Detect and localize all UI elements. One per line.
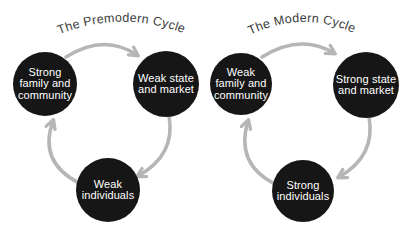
arrow-premodern-individuals-to-family (49, 121, 79, 183)
arrow-modern-family-to-state (262, 44, 334, 57)
arrow-premodern-family-to-state (66, 44, 137, 57)
arrow-modern-state-to-individuals (339, 117, 370, 177)
node-modern-individuals: Strong individuals (272, 160, 334, 222)
node-premodern-individuals: Weak individuals (76, 158, 140, 222)
node-modern-family-community: Weak family and community (210, 53, 272, 115)
node-label-line: individuals (277, 191, 329, 203)
node-premodern-family-community: Strong family and community (13, 52, 77, 116)
cycles-figure: The Premodern Cycle The Modern Cycle Str… (0, 0, 404, 231)
node-label-line: individuals (82, 190, 134, 202)
node-modern-state-market: Strong state and market (333, 52, 399, 118)
arrows-and-titles-layer: The Premodern Cycle The Modern Cycle (0, 0, 404, 231)
node-label-line: community (214, 90, 268, 102)
arrow-modern-individuals-to-family (245, 121, 275, 184)
node-premodern-state-market: Weak state and market (133, 51, 199, 117)
node-label-line: community (18, 90, 72, 102)
modern-cycle-title: The Modern Cycle (246, 11, 358, 38)
node-label-line: and market (138, 84, 194, 96)
premodern-cycle-title: The Premodern Cycle (55, 11, 187, 37)
node-label-line: and market (338, 85, 394, 97)
arrow-premodern-state-to-individuals (138, 116, 170, 176)
